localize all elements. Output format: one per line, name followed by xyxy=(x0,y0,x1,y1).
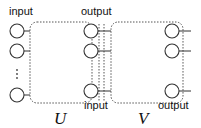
u-input-label: input xyxy=(9,5,33,17)
v-input-label: input xyxy=(84,99,108,111)
u-input-node xyxy=(10,88,24,102)
module-u-box xyxy=(30,22,92,103)
u-output-node xyxy=(84,44,98,58)
v-output-nodes xyxy=(165,24,191,98)
module-u-name: U xyxy=(54,109,68,128)
v-output-label: output xyxy=(158,99,189,111)
u-output-node xyxy=(84,84,98,98)
network-diagram: input output input output U V xyxy=(0,0,201,128)
u-input-node xyxy=(10,44,24,58)
ellipsis-dot xyxy=(16,73,18,75)
u-input-nodes xyxy=(10,24,30,102)
u-output-nodes xyxy=(84,24,111,98)
module-v-name: V xyxy=(138,109,151,128)
u-output-label: output xyxy=(81,5,112,17)
v-output-node xyxy=(165,44,179,58)
u-output-node xyxy=(84,24,98,38)
ellipsis-dot xyxy=(16,69,18,71)
v-output-node xyxy=(165,24,179,38)
v-output-node xyxy=(165,84,179,98)
u-input-node xyxy=(10,24,24,38)
ellipsis-dot xyxy=(16,77,18,79)
